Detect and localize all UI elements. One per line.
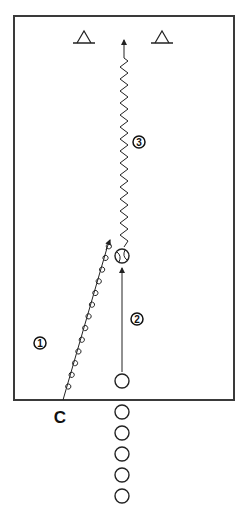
cone-left-icon bbox=[73, 31, 95, 43]
coach-label: C bbox=[54, 408, 66, 427]
player-icon bbox=[115, 405, 129, 419]
player-line bbox=[115, 374, 129, 503]
player-icon bbox=[115, 468, 129, 482]
step-2-label: 2 bbox=[134, 314, 140, 325]
drill-diagram: 3 2 1 C bbox=[0, 0, 247, 520]
step-3-badge: 3 bbox=[133, 136, 145, 148]
step-3-label: 3 bbox=[136, 137, 142, 148]
step-1-label: 1 bbox=[37, 338, 43, 349]
player-icon bbox=[115, 489, 129, 503]
player-icon bbox=[115, 426, 129, 440]
player-icon bbox=[115, 374, 129, 388]
serve-path bbox=[63, 244, 111, 400]
step-1-badge: 1 bbox=[34, 337, 46, 349]
dribble-path bbox=[120, 58, 128, 247]
cone-right-icon bbox=[151, 31, 173, 43]
step-2-badge: 2 bbox=[131, 313, 143, 325]
player-icon bbox=[115, 447, 129, 461]
ball-icon bbox=[115, 249, 129, 263]
